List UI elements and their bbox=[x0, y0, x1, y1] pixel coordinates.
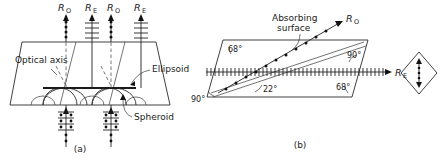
optical-axis-marker-2 bbox=[101, 66, 111, 86]
ray-label-o-1: R O bbox=[58, 2, 71, 15]
svg-text:R: R bbox=[134, 2, 141, 13]
svg-text:R: R bbox=[107, 2, 114, 13]
angle-label-22: 22° bbox=[263, 85, 277, 94]
panel-a: Optical axis bbox=[10, 2, 189, 154]
svg-text:E: E bbox=[142, 7, 146, 15]
ray-label-e-2: R E bbox=[134, 2, 146, 15]
angle-arc-22 bbox=[255, 85, 262, 92]
crystal-face-left bbox=[60, 42, 76, 105]
svg-text:O: O bbox=[354, 18, 359, 26]
ray-o-2-arrowhead bbox=[108, 14, 114, 21]
absorbing-surface-label-line2: surface bbox=[277, 23, 311, 33]
ray-e-2-arrowhead bbox=[138, 14, 144, 21]
optical-axis-marker-1 bbox=[56, 66, 66, 86]
ray-e-b-arrowhead bbox=[385, 69, 392, 75]
angle-label-68-topleft: 68° bbox=[228, 45, 242, 54]
angle-label-90-right: 90° bbox=[347, 51, 361, 60]
svg-text:R: R bbox=[85, 2, 92, 13]
svg-text:R: R bbox=[58, 2, 65, 13]
panel-b: Absorbing surface 68° 90° 90° 22° 68° R … bbox=[191, 13, 437, 150]
ray-label-e-1: R E bbox=[85, 2, 97, 15]
ray-e-1-arrowhead bbox=[89, 14, 95, 21]
absorbing-surface-label-line1: Absorbing bbox=[272, 13, 317, 23]
angle-label-90-left: 90° bbox=[191, 95, 205, 104]
crystal-outline-a bbox=[10, 42, 170, 105]
ray-label-o-b: R O bbox=[346, 13, 359, 26]
ray-o-1-arrowhead bbox=[63, 14, 69, 21]
svg-text:O: O bbox=[66, 7, 71, 15]
svg-text:O: O bbox=[115, 7, 120, 15]
caption-a: (a) bbox=[74, 144, 87, 154]
ellipsoid-wavelet-2 bbox=[92, 88, 136, 105]
ellipsoid-leader bbox=[131, 70, 150, 84]
optical-axis-leader bbox=[51, 69, 57, 75]
optical-axis-label-line1: Optical axis bbox=[15, 55, 68, 65]
spheroid-label: Spheroid bbox=[134, 112, 174, 122]
figure-double-refraction: Optical axis bbox=[0, 0, 443, 161]
incident-ray-2 bbox=[103, 105, 119, 147]
svg-text:R: R bbox=[346, 13, 353, 24]
svg-text:R: R bbox=[395, 67, 402, 78]
angle-label-68-bottomright: 68° bbox=[336, 83, 350, 92]
svg-text:E: E bbox=[93, 7, 97, 15]
ray-label-o-2: R O bbox=[107, 2, 120, 15]
spheroid-leader-arrow bbox=[120, 94, 126, 100]
ray-o-b-arrowhead bbox=[335, 21, 343, 27]
caption-b: (b) bbox=[294, 140, 307, 150]
incident-ray-1 bbox=[58, 105, 74, 147]
ellipsoid-label: Ellipsoid bbox=[152, 64, 189, 74]
